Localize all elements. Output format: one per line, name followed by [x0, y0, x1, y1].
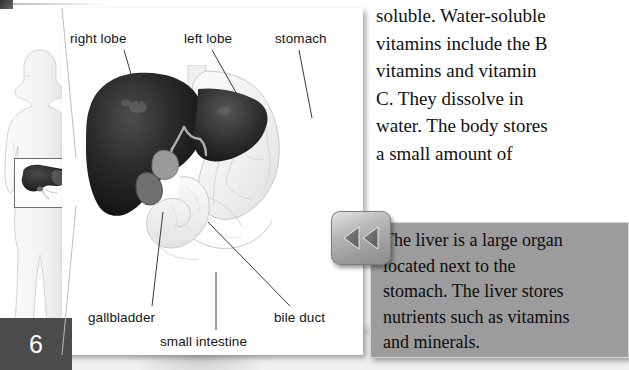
label-gallbladder: gallbladder — [88, 310, 155, 325]
label-small-intestine: small intestine — [160, 334, 247, 349]
article-line: vitamins include the B — [376, 30, 626, 58]
info-callout-text: The liver is a large organ located next … — [383, 228, 624, 356]
label-left-lobe: left lobe — [184, 31, 232, 46]
rewind-button[interactable] — [331, 211, 391, 265]
callout-line: and minerals. — [383, 330, 624, 356]
callout-line: The liver is a large organ — [383, 228, 624, 254]
article-line: soluble. Water-soluble — [376, 2, 626, 30]
callout-line: stomach. The liver stores — [383, 279, 624, 305]
article-line: water. The body stores — [376, 112, 626, 140]
article-line: C. They dissolve in — [376, 85, 626, 113]
info-callout: The liver is a large organ located next … — [370, 222, 629, 358]
diagram-panel — [62, 8, 363, 355]
article-text: soluble. Water-soluble vitamins include … — [376, 2, 626, 167]
liver-anatomy-illustration — [82, 65, 344, 287]
article-line: a small amount of — [376, 140, 626, 168]
page-number: 6 — [0, 318, 72, 370]
label-stomach: stomach — [275, 31, 327, 46]
label-bile-duct: bile duct — [274, 310, 325, 325]
corner-rule — [13, 3, 108, 5]
callout-line: located next to the — [383, 254, 624, 280]
double-chevron-left-icon — [341, 225, 381, 251]
page-canvas: 6 soluble. Water-soluble vitamins includ… — [0, 0, 629, 370]
corner-fragment — [0, 0, 13, 9]
label-right-lobe: right lobe — [70, 31, 127, 46]
article-line: vitamins and vitamin — [376, 57, 626, 85]
callout-line: nutrients such as vitamins — [383, 305, 624, 331]
